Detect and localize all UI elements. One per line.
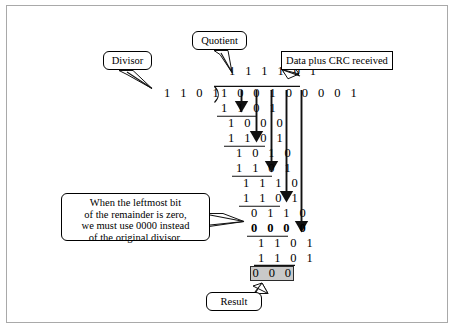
note-line-3: we must use 0000 instead bbox=[66, 220, 205, 232]
figure-canvas: 1 1 1 1 0 1 1 1 0 1 1 0 0 1 0 0 0 0 1 1 … bbox=[0, 0, 455, 330]
callout-divisor: Divisor bbox=[103, 51, 152, 70]
callout-quotient: Quotient bbox=[192, 31, 247, 50]
result-value-box: 0 0 0 bbox=[250, 266, 294, 281]
callout-data-plus-crc: Data plus CRC received bbox=[281, 51, 393, 70]
step-subtrahend-5-zero-divisor: 0 0 0 0 bbox=[251, 222, 309, 235]
step-remainder-3: 1 1 1 0 bbox=[243, 177, 301, 190]
step-subtrahend-3: 1 1 0 1 bbox=[236, 162, 294, 175]
step-subtrahend-2: 1 1 0 1 bbox=[228, 132, 286, 145]
callout-result-label: Result bbox=[221, 296, 248, 308]
callout-zero-divisor-note: When the leftmost bit of the remainder i… bbox=[61, 193, 210, 241]
callout-quotient-label: Quotient bbox=[201, 35, 238, 47]
dividend-digits: 1 0 0 1 0 0 0 0 1 bbox=[221, 87, 360, 100]
callout-data-plus-crc-label: Data plus CRC received bbox=[286, 55, 388, 67]
divisor-digits: 1 1 0 1 bbox=[164, 87, 222, 100]
step-subtrahend-1: 1 1 0 1 bbox=[221, 102, 279, 115]
callout-result: Result bbox=[206, 292, 262, 311]
note-line-4: of the original divisor. bbox=[66, 232, 205, 244]
step-subtrahend-4: 1 1 0 1 bbox=[243, 192, 301, 205]
note-line-2: of the remainder is zero, bbox=[66, 209, 205, 221]
step-subtrahend-6: 1 1 0 1 bbox=[258, 252, 316, 265]
callout-divisor-label: Divisor bbox=[112, 55, 144, 67]
step-remainder-1: 1 0 0 0 bbox=[228, 117, 286, 130]
step-remainder-2: 1 0 1 0 bbox=[236, 147, 294, 160]
step-remainder-4: 0 1 1 0 bbox=[251, 207, 309, 220]
step-remainder-5: 1 1 0 1 bbox=[258, 237, 316, 250]
note-line-1: When the leftmost bit bbox=[66, 197, 205, 209]
